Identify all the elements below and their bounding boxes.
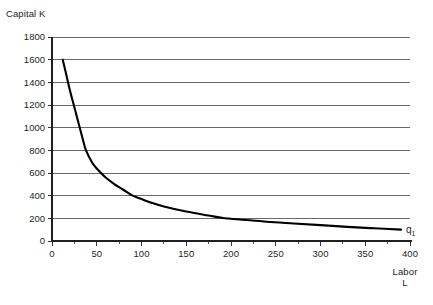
- y-tick-label-0: 0: [40, 235, 45, 246]
- x-tick-label-400: 400: [402, 248, 418, 259]
- y-axis-ticks: [48, 37, 52, 241]
- y-tick-label-200: 200: [29, 213, 45, 224]
- axis-lines: [52, 37, 412, 241]
- data-series: [63, 60, 401, 230]
- x-axis-tick-labels: 050100150200250300350400: [49, 248, 418, 259]
- y-tick-label-1800: 1800: [24, 31, 45, 42]
- y-tick-label-1000: 1000: [24, 122, 45, 133]
- curve-label: q1: [406, 224, 416, 237]
- x-tick-label-50: 50: [91, 248, 102, 259]
- x-axis-ticks: [52, 241, 410, 246]
- curve-annotation-q1: q1: [406, 224, 416, 237]
- y-tick-label-800: 800: [29, 145, 45, 156]
- y-tick-label-600: 600: [29, 167, 45, 178]
- y-tick-label-1600: 1600: [24, 54, 45, 65]
- x-tick-label-350: 350: [357, 248, 373, 259]
- x-tick-label-200: 200: [223, 248, 239, 259]
- y-tick-label-1200: 1200: [24, 99, 45, 110]
- curve-q1: [63, 60, 401, 230]
- x-tick-label-250: 250: [268, 248, 284, 259]
- y-tick-label-400: 400: [29, 190, 45, 201]
- curve-annotation-subscript: 1: [412, 230, 416, 237]
- gridlines: [52, 37, 410, 241]
- plot-area: 020040060080010001200140016001800 050100…: [0, 0, 433, 305]
- isoquant-chart: Capital K LaborL 02004006008001000120014…: [0, 0, 433, 305]
- x-tick-label-100: 100: [134, 248, 150, 259]
- y-tick-label-1400: 1400: [24, 77, 45, 88]
- x-tick-label-0: 0: [49, 248, 54, 259]
- x-tick-label-150: 150: [178, 248, 194, 259]
- x-tick-label-300: 300: [313, 248, 329, 259]
- y-axis-tick-labels: 020040060080010001200140016001800: [24, 31, 45, 246]
